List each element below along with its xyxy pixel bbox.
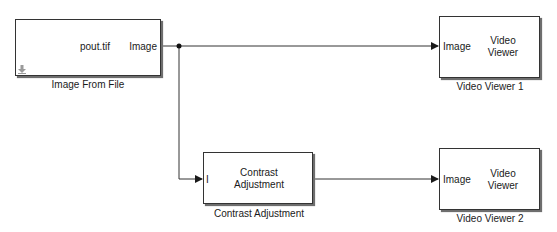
image-from-file-caption[interactable]: Image From File [38, 79, 138, 91]
simulink-canvas[interactable]: pout.tif Image Image From File Image Vid… [0, 0, 557, 232]
contrast-adjustment-caption[interactable]: Contrast Adjustment [203, 208, 315, 220]
contrast-adjustment-block[interactable]: I Contrast Adjustment [203, 152, 313, 204]
block-content-line2: Viewer [478, 47, 528, 59]
video-viewer-2-caption[interactable]: Video Viewer 2 [440, 213, 540, 225]
video-viewer-1-block[interactable]: Image Video Viewer [439, 16, 540, 78]
block-content-line1: Video [478, 35, 528, 47]
block-content-filename: pout.tif [70, 41, 120, 53]
video-viewer-1-caption[interactable]: Video Viewer 1 [440, 81, 540, 93]
image-from-file-block[interactable]: pout.tif Image [15, 19, 161, 76]
output-port-label: Image [129, 41, 157, 53]
block-content-line2: Viewer [478, 180, 528, 192]
video-viewer-2-block[interactable]: Image Video Viewer [439, 148, 540, 210]
input-port-label: Image [443, 174, 471, 186]
signal-branch-to-contrast[interactable] [179, 46, 202, 179]
block-content-line1: Contrast [224, 167, 294, 179]
source-arrow-icon [18, 65, 26, 74]
block-content-line2: Adjustment [224, 179, 294, 191]
input-port-label: I [206, 174, 209, 186]
block-content-line1: Video [478, 168, 528, 180]
branch-point [177, 44, 182, 49]
input-port-label: Image [443, 41, 471, 53]
